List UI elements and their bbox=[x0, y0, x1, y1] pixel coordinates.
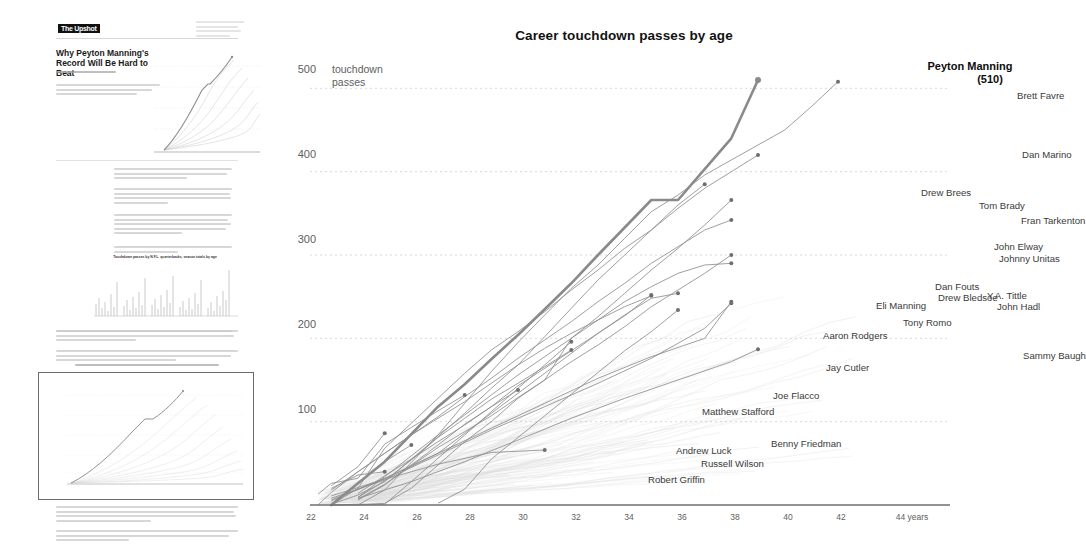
x-tick-44-years: 44 years bbox=[882, 512, 942, 522]
article-body-9 bbox=[56, 530, 238, 544]
article-figure-bars: . bbox=[90, 264, 240, 324]
series-endpoint-aaron-rodgers bbox=[569, 340, 573, 344]
article-body-4 bbox=[114, 246, 232, 255]
article-figure-top bbox=[150, 42, 262, 160]
article-byline bbox=[56, 71, 152, 76]
x-tick-28: 28 bbox=[450, 512, 490, 522]
y-axis-label-line2: passes bbox=[332, 76, 412, 88]
y-tick-400: 400 bbox=[282, 148, 316, 160]
x-tick-26: 26 bbox=[397, 512, 437, 522]
player-label-peyton-manning: Peyton Manning bbox=[928, 60, 1013, 72]
series-endpoint-fran-tarkenton bbox=[729, 218, 733, 222]
player-label-matthew-stafford: Matthew Stafford bbox=[702, 406, 774, 417]
selected-figure-caption bbox=[44, 364, 250, 368]
series-line-john-hadl bbox=[331, 302, 731, 501]
player-label-russell-wilson: Russell Wilson bbox=[701, 458, 764, 469]
player-label-jay-cutler: Jay Cutler bbox=[826, 362, 869, 373]
series-endpoint-brett-favre bbox=[836, 80, 840, 84]
series-endpoint-tom-brady bbox=[729, 198, 733, 202]
player-label-eli-manning: Eli Manning bbox=[876, 300, 926, 311]
player-label-y-a-tittle: Y.A. Tittle bbox=[987, 290, 1027, 301]
x-tick-22: 22 bbox=[291, 512, 331, 522]
x-tick-34: 34 bbox=[609, 512, 649, 522]
series-endpoint-russell-wilson bbox=[409, 443, 413, 447]
player-label-joe-flacco: Joe Flacco bbox=[773, 390, 819, 401]
article-body-2 bbox=[114, 188, 232, 206]
series-endpoint-benny-friedman bbox=[543, 448, 547, 452]
masthead-logo: The Upshot bbox=[58, 24, 100, 33]
x-tick-38: 38 bbox=[715, 512, 755, 522]
article-lede bbox=[56, 84, 160, 98]
series-endpoint-john-hadl bbox=[729, 300, 733, 304]
career-touchdown-chart: Career touchdown passes by age 500 400 3… bbox=[290, 0, 958, 554]
series-endpoint-drew-brees bbox=[703, 182, 707, 186]
y-axis-label-line1: touchdown bbox=[332, 63, 412, 75]
player-label-john-hadl: John Hadl bbox=[997, 301, 1040, 312]
svg-text:.: . bbox=[98, 319, 99, 323]
article-body-3 bbox=[114, 214, 232, 237]
y-tick-300: 300 bbox=[282, 233, 316, 245]
player-label-aaron-rodgers: Aaron Rodgers bbox=[823, 330, 888, 341]
player-label-dan-fouts: Dan Fouts bbox=[935, 281, 979, 292]
selected-figure-chart bbox=[45, 379, 247, 493]
background-career-line bbox=[335, 359, 708, 492]
x-tick-30: 30 bbox=[503, 512, 543, 522]
series-endpoint-john-elway bbox=[729, 253, 733, 257]
player-label-benny-friedman: Benny Friedman bbox=[771, 438, 841, 449]
series-endpoint-andrew-luck bbox=[383, 431, 387, 435]
player-label-drew-brees: Drew Brees bbox=[921, 187, 971, 198]
series-endpoint-dan-marino bbox=[756, 153, 760, 157]
article-body-6 bbox=[56, 330, 238, 344]
x-tick-42: 42 bbox=[821, 512, 861, 522]
series-endpoint-eli-manning bbox=[649, 293, 653, 297]
series-endpoint-sammy-baugh bbox=[756, 347, 760, 351]
player-label-tony-romo: Tony Romo bbox=[903, 317, 952, 328]
player-label--510-: (510) bbox=[977, 73, 1003, 85]
x-tick-36: 36 bbox=[662, 512, 702, 522]
player-label-fran-tarkenton: Fran Tarkenton bbox=[1021, 215, 1085, 226]
player-label-johnny-unitas: Johnny Unitas bbox=[999, 253, 1060, 264]
player-label-dan-marino: Dan Marino bbox=[1022, 149, 1072, 160]
player-label-tom-brady: Tom Brady bbox=[979, 200, 1025, 211]
series-line-brett-favre bbox=[331, 82, 838, 505]
selected-figure-box[interactable] bbox=[38, 372, 254, 500]
series-endpoint-dan-fouts bbox=[676, 291, 680, 295]
article-body-8 bbox=[56, 506, 238, 524]
series-endpoint-tony-romo bbox=[676, 308, 680, 312]
player-label-sammy-baugh: Sammy Baugh bbox=[1023, 350, 1086, 361]
x-tick-32: 32 bbox=[556, 512, 596, 522]
series-endpoint-matthew-stafford bbox=[463, 393, 467, 397]
series-endpoint-robert-griffin bbox=[383, 470, 387, 474]
article-body-1 bbox=[114, 168, 232, 182]
series-line-fran-tarkenton bbox=[331, 220, 731, 490]
y-tick-200: 200 bbox=[282, 318, 316, 330]
series-endpoint-peyton-manning bbox=[755, 77, 761, 83]
player-label-john-elway: John Elway bbox=[994, 241, 1043, 252]
article-thumbnail[interactable]: The Upshot Why Peyton Manning's Record W… bbox=[30, 8, 266, 548]
series-endpoint-johnny-unitas bbox=[729, 261, 733, 265]
series-endpoint-joe-flacco bbox=[516, 388, 520, 392]
y-tick-500: 500 bbox=[282, 63, 316, 75]
section-rule-1 bbox=[56, 160, 238, 161]
article-figure-caption-mid: Touchdown passes by N.F.L. quarterbacks,… bbox=[90, 255, 240, 259]
player-label-robert-griffin: Robert Griffin bbox=[648, 474, 705, 485]
article-body-7 bbox=[56, 350, 238, 364]
y-tick-100: 100 bbox=[282, 403, 316, 415]
player-label-brett-favre: Brett Favre bbox=[1017, 90, 1064, 101]
x-tick-40: 40 bbox=[768, 512, 808, 522]
x-tick-24: 24 bbox=[344, 512, 384, 522]
masthead-meta bbox=[196, 21, 244, 39]
series-endpoint-jay-cutler bbox=[569, 348, 573, 352]
player-label-andrew-luck: Andrew Luck bbox=[676, 445, 731, 456]
